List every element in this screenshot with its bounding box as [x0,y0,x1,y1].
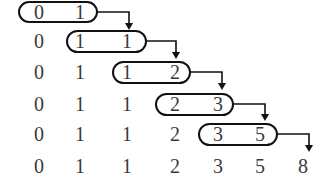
cell-r3-c4: 3 [208,94,228,114]
sum-arrow [233,104,265,115]
cell-r4-c4: 3 [208,124,228,144]
cell-r3-c3: 2 [165,94,185,114]
cell-r5-c0: 0 [29,156,49,176]
cell-r2-c0: 0 [29,62,49,82]
fibonacci-diagram: 0 1 0 1 1 0 1 1 2 0 1 1 2 3 0 1 1 2 3 5 … [0,0,335,192]
cell-r2-c3: 2 [165,62,185,82]
cell-r4-c3: 2 [165,124,185,144]
cell-r3-c2: 1 [117,94,137,114]
cell-r5-c3: 2 [165,156,185,176]
arrowhead-icon [218,83,226,90]
cell-r5-c5: 5 [250,156,270,176]
cell-r4-c5: 5 [250,124,270,144]
cell-r5-c1: 1 [70,156,90,176]
cell-r0-c0: 0 [29,2,49,22]
cell-r2-c2: 1 [117,62,137,82]
sum-arrow [97,12,129,24]
cell-r1-c2: 1 [117,31,137,51]
sum-arrow [146,41,176,53]
cell-r5-c6: 8 [293,156,313,176]
arrowhead-icon [172,52,180,59]
arrowhead-icon [305,145,313,152]
cell-r5-c4: 3 [208,156,228,176]
sum-arrow [190,72,222,84]
cell-r4-c1: 1 [70,124,90,144]
arrowhead-icon [261,114,269,121]
cell-r1-c0: 0 [29,31,49,51]
cell-r0-c1: 1 [70,2,90,22]
cell-r4-c0: 0 [29,124,49,144]
cell-r3-c0: 0 [29,94,49,114]
cell-r5-c2: 1 [117,156,137,176]
cell-r1-c1: 1 [70,31,90,51]
cell-r2-c1: 1 [70,62,90,82]
cell-r3-c1: 1 [70,94,90,114]
sum-arrow [277,134,309,146]
arrowhead-icon [125,23,133,30]
cell-r4-c2: 1 [117,124,137,144]
